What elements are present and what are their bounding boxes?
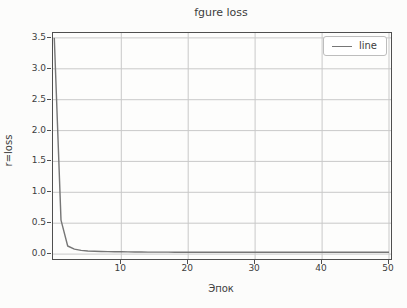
x-tick-mark: [254, 260, 255, 264]
plot-area: line: [52, 32, 392, 260]
y-tick-label: 3.0: [32, 63, 46, 73]
y-tick-mark: [47, 160, 51, 161]
x-tick-label: 40: [315, 263, 326, 273]
loss-figure: fgure loss r=loss line 1020304050 0.00.5…: [0, 0, 407, 308]
chart-title: fgure loss: [52, 6, 390, 19]
y-tick-label: 2.0: [32, 125, 46, 135]
x-axis-label: Эпок: [52, 283, 390, 294]
y-tick-mark: [47, 191, 51, 192]
y-tick-label: 3.5: [32, 32, 46, 42]
y-tick-label: 1.0: [32, 186, 46, 196]
x-tick-label: 30: [248, 263, 259, 273]
y-tick-mark: [47, 130, 51, 131]
x-tick-label: 50: [382, 263, 393, 273]
y-tick-label: 2.5: [32, 94, 46, 104]
x-tick-mark: [388, 260, 389, 264]
x-tick-label: 20: [181, 263, 192, 273]
y-tick-mark: [47, 68, 51, 69]
y-axis-label: r=loss: [3, 86, 14, 216]
x-tick-mark: [120, 260, 121, 264]
y-tick-mark: [47, 37, 51, 38]
y-tick-label: 0.5: [32, 217, 46, 227]
y-tick-mark: [47, 222, 51, 223]
legend-label: line: [359, 40, 377, 52]
legend-line-sample-icon: [332, 46, 352, 47]
x-tick-mark: [187, 260, 188, 264]
y-tick-mark: [47, 253, 51, 254]
y-tick-mark: [47, 99, 51, 100]
x-tick-mark: [321, 260, 322, 264]
x-tick-label: 10: [115, 263, 126, 273]
legend: line: [323, 36, 387, 56]
y-tick-label: 1.5: [32, 155, 46, 165]
y-tick-label: 0.0: [32, 248, 46, 258]
plot-svg: [53, 33, 391, 259]
